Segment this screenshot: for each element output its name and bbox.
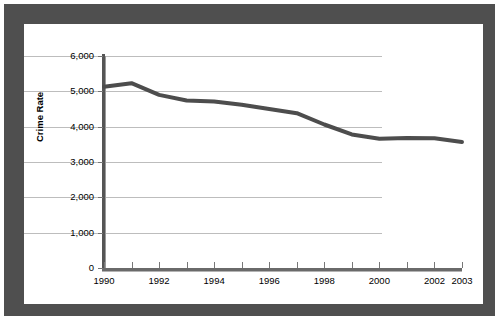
plot-canvas: 01,0002,0003,0004,0005,0006,000 19901992… xyxy=(24,24,483,304)
figure-frame: 01,0002,0003,0004,0005,0006,000 19901992… xyxy=(0,0,499,320)
line-chart: 01,0002,0003,0004,0005,0006,000 19901992… xyxy=(24,24,483,304)
series-layer xyxy=(24,24,483,304)
series-line-crime-rate xyxy=(104,83,462,142)
figure-border: 01,0002,0003,0004,0005,0006,000 19901992… xyxy=(4,4,495,316)
